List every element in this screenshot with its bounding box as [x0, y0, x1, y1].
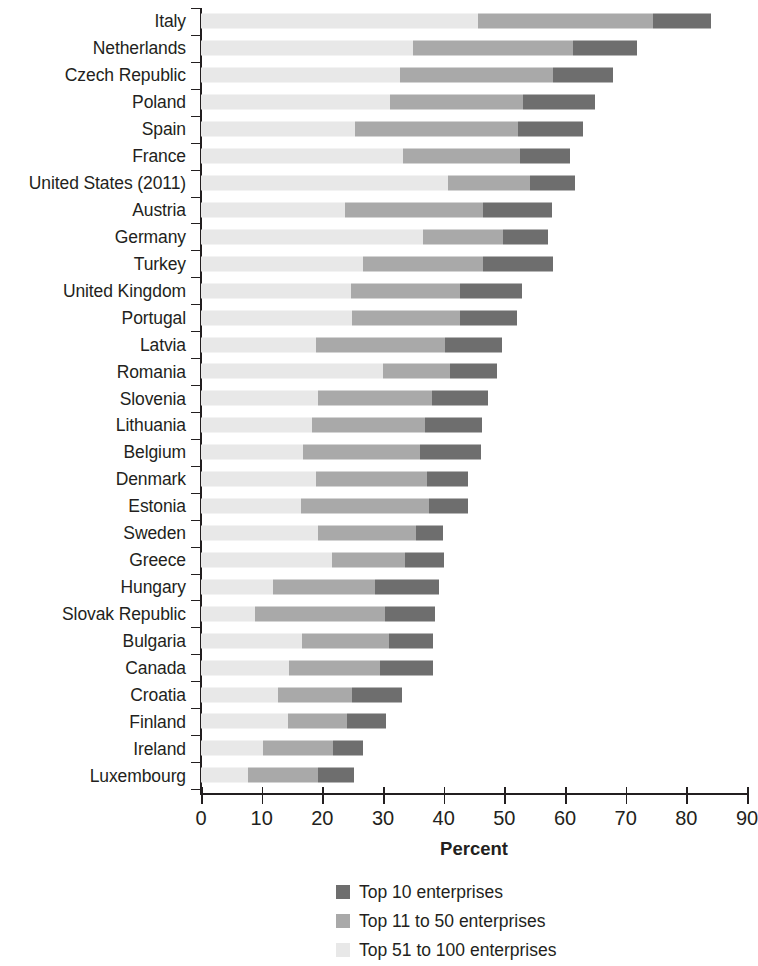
- bar-segment-top-51-100: [201, 418, 312, 433]
- bar-track: [201, 116, 747, 143]
- x-axis-tick: [747, 795, 749, 804]
- bar-segment-top-11-50: [316, 472, 427, 487]
- bar-row: [201, 277, 747, 304]
- bar-row: [201, 573, 747, 600]
- legend-swatch-icon: [336, 943, 350, 957]
- y-axis-tick: [191, 493, 200, 494]
- bar-segment-top-51-100: [201, 687, 278, 702]
- bar-track: [201, 277, 747, 304]
- bar-segment-top-10: [429, 499, 468, 514]
- bar-segment-top-51-100: [201, 741, 263, 756]
- bar-row: [201, 439, 747, 466]
- bar-segment-top-10: [503, 229, 548, 244]
- x-axis-tick-upper: [504, 787, 506, 795]
- bar-segment-top-51-100: [201, 472, 316, 487]
- y-axis-label: Luxembourg: [90, 766, 186, 786]
- bar-row: [201, 143, 747, 170]
- bar-row: [201, 35, 747, 62]
- bar-track: [201, 654, 747, 681]
- legend-item: Top 11 to 50 enterprises: [336, 906, 736, 935]
- y-axis-tick: [191, 385, 200, 386]
- bar-segment-top-51-100: [201, 633, 302, 648]
- bar-track: [201, 196, 747, 223]
- bar-row: [201, 466, 747, 493]
- bar-row: [201, 331, 747, 358]
- bar-track: [201, 520, 747, 547]
- y-axis-label: Slovak Republic: [62, 604, 186, 624]
- bar-segment-top-10: [416, 525, 443, 540]
- bar-segment-top-10: [389, 633, 433, 648]
- y-axis-tick: [191, 62, 200, 63]
- x-axis-tick-label: 60: [554, 806, 576, 830]
- bar-segment-top-10: [653, 14, 711, 29]
- plot-area: [201, 8, 747, 793]
- bar-track: [201, 331, 747, 358]
- bar-segment-top-51-100: [201, 552, 332, 567]
- bar-segment-top-11-50: [478, 14, 653, 29]
- y-axis-label: France: [132, 146, 186, 166]
- y-axis-tick: [191, 627, 200, 628]
- bar-segment-top-51-100: [201, 579, 273, 594]
- bar-segment-top-11-50: [413, 41, 573, 56]
- bar-segment-top-10: [445, 337, 502, 352]
- bar-segment-top-51-100: [201, 122, 355, 137]
- bar-track: [201, 358, 747, 385]
- y-axis-label: Greece: [129, 550, 186, 570]
- bar-track: [201, 304, 747, 331]
- bar-segment-top-10: [450, 364, 497, 379]
- bar-track: [201, 223, 747, 250]
- y-axis-label: Romania: [117, 362, 186, 382]
- bar-row: [201, 493, 747, 520]
- bar-segment-top-10: [425, 418, 482, 433]
- legend-label: Top 11 to 50 enterprises: [359, 911, 545, 931]
- bar-row: [201, 708, 747, 735]
- bar-row: [201, 196, 747, 223]
- y-axis-label: Sweden: [123, 523, 186, 543]
- bar-track: [201, 89, 747, 116]
- bar-segment-top-51-100: [201, 95, 390, 110]
- bar-segment-top-51-100: [201, 606, 255, 621]
- x-axis-tick-label: 30: [372, 806, 394, 830]
- bar-segment-top-10: [318, 768, 354, 783]
- bar-segment-top-11-50: [289, 660, 380, 675]
- y-axis-label: United Kingdom: [63, 281, 186, 301]
- y-axis-tick: [191, 358, 200, 359]
- bar-row: [201, 62, 747, 89]
- bar-segment-top-51-100: [201, 229, 423, 244]
- y-axis-tick: [191, 197, 200, 198]
- bar-segment-top-51-100: [201, 68, 400, 83]
- bar-segment-top-11-50: [288, 714, 347, 729]
- y-axis-tick: [191, 277, 200, 278]
- bar-track: [201, 250, 747, 277]
- bar-row: [201, 170, 747, 197]
- bar-segment-top-10: [573, 41, 637, 56]
- x-axis-tick-label: 40: [433, 806, 455, 830]
- y-axis-tick: [191, 304, 200, 305]
- x-axis-tick-upper: [565, 787, 567, 795]
- y-axis-label: Hungary: [121, 577, 186, 597]
- y-axis-label: Poland: [132, 92, 186, 112]
- y-axis-tick: [191, 89, 200, 90]
- bar-segment-top-11-50: [383, 364, 450, 379]
- bar-segment-top-10: [460, 310, 517, 325]
- bar-row: [201, 627, 747, 654]
- y-axis-tick: [191, 466, 200, 467]
- bar-segment-top-10: [520, 149, 570, 164]
- y-axis-label: Croatia: [130, 685, 186, 705]
- bar-track: [201, 573, 747, 600]
- bar-segment-top-11-50: [263, 741, 333, 756]
- y-axis-label: Italy: [154, 11, 186, 31]
- y-axis-tick: [191, 789, 200, 790]
- bar-track: [201, 385, 747, 412]
- bar-segment-top-11-50: [351, 283, 460, 298]
- bar-segment-top-11-50: [448, 175, 530, 190]
- bar-segment-top-51-100: [201, 175, 448, 190]
- bar-segment-top-10: [460, 283, 522, 298]
- y-axis-labels: ItalyNetherlandsCzech RepublicPolandSpai…: [0, 8, 186, 789]
- bar-track: [201, 62, 747, 89]
- y-axis-tick: [191, 708, 200, 709]
- x-axis-tick-upper: [383, 787, 385, 795]
- y-axis-label: Germany: [115, 227, 186, 247]
- y-axis-label: Austria: [132, 200, 186, 220]
- bar-row: [201, 250, 747, 277]
